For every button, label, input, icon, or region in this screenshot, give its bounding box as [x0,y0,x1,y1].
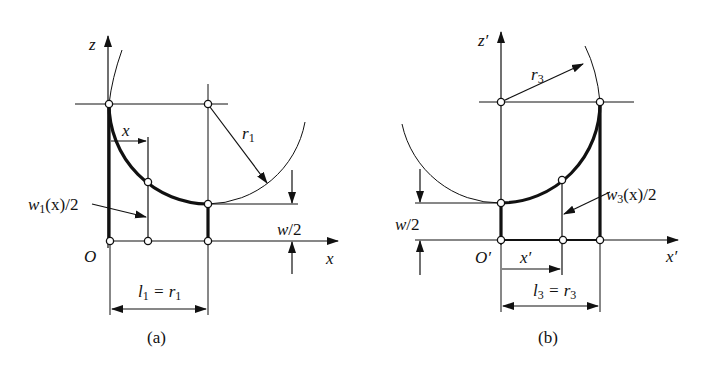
circle-arc-top [585,46,600,102]
node-top-left [497,98,504,105]
caption-a: (a) [147,328,166,347]
profile-curve [109,104,208,204]
node-curve-mid [144,178,151,185]
node-top-right [204,100,211,107]
node-top-right [596,98,603,105]
w3-label: w3(x)/2 [606,185,656,206]
x-dim-label: x [121,121,130,140]
node-curve-bottom [204,200,211,207]
node-curve-bottom [497,199,504,206]
origin-label: O [84,247,96,266]
w-half-label: w/2 [395,215,420,234]
caption-b: (b) [538,328,558,347]
radius-label: r1 [242,124,255,145]
node-axis-mid [559,236,566,243]
node-origin [106,237,113,244]
node-origin [497,236,504,243]
node-curve-mid [558,176,565,183]
circle-arc [109,50,122,104]
w-half-label: w/2 [277,220,302,239]
circle-arc-right [208,122,305,204]
figure-a [75,36,338,315]
length-label: l3 = r3 [533,281,576,302]
node-axis-mid [144,237,151,244]
radius-label: r3 [531,65,544,86]
figure-canvas: z x O x r1 w1(x)/2 w/2 l1 = r1 (a) [0,0,714,372]
node-top-left [105,100,112,107]
node-axis-right [596,236,603,243]
radius-arrow [210,107,267,183]
x-prime-dim-label: x′ [519,248,532,267]
z-prime-axis-label: z′ [477,31,489,50]
figure-a-labels: z x O x r1 w1(x)/2 w/2 l1 = r1 (a) [28,35,334,347]
profile-curve [501,102,600,203]
z-axis-label: z [88,35,96,54]
w1-label: w1(x)/2 [28,195,78,216]
w3-pointer-arrow [564,192,610,214]
node-points [497,98,603,243]
circle-arc-left [402,124,501,203]
x-prime-axis-label: x′ [665,247,678,266]
figure-b-labels: z′ x′ O′ x′ r3 w3(x)/2 w/2 l3 = r3 (b) [395,31,678,347]
length-label: l1 = r1 [138,282,181,303]
node-axis-right [204,237,211,244]
origin-prime-label: O′ [475,248,491,267]
x-axis-label: x [325,249,334,268]
w1-pointer-arrow [92,204,146,217]
